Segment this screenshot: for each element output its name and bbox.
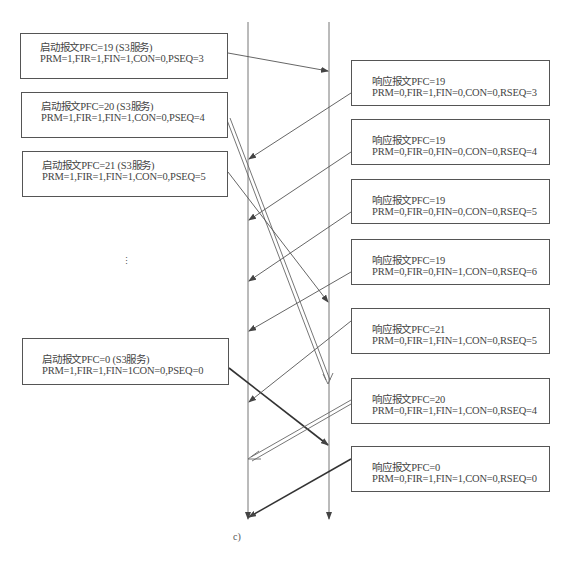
request-title: 启动报文PFC=19 (S3服务) xyxy=(40,42,152,53)
response-box-7: 响应报文PFC=0 PRM=0,FIR=1,FIN=1,CON=0,RSEQ=0 xyxy=(351,446,550,492)
request-arrow-pfc19 xyxy=(228,53,328,71)
response-arrow-4 xyxy=(249,272,351,331)
response-arrow-2 xyxy=(249,152,351,220)
response-box-3: 响应报文PFC=19 PRM=0,FIR=0,FIN=0,CON=0,RSEQ=… xyxy=(351,179,550,224)
response-arrow-6-double xyxy=(248,400,351,461)
response-title: 响应报文PFC=19 xyxy=(372,135,445,146)
response-title: 响应报文PFC=19 xyxy=(372,255,445,266)
request-params: PRM=1,FIR=1,FIN=1,CON=0,PSEQ=5 xyxy=(42,171,206,182)
response-arrow-3 xyxy=(249,212,351,281)
response-arrow-7 xyxy=(249,459,351,517)
response-title: 响应报文PFC=20 xyxy=(372,394,445,405)
request-title: 启动报文PFC=0 (S3服务) xyxy=(42,354,149,365)
response-params: PRM=0,FIR=1,FIN=0,CON=0,RSEQ=3 xyxy=(372,87,537,98)
request-title: 启动报文PFC=21 (S3服务) xyxy=(42,160,154,171)
request-params: PRM=1,FIR=1,FIN=1CON=0,PSEQ=0 xyxy=(42,365,203,376)
response-title: 响应报文PFC=21 xyxy=(372,324,445,335)
request-arrow-pfc0 xyxy=(229,368,328,445)
figure-caption: c) xyxy=(233,531,241,542)
response-params: PRM=0,FIR=1,FIN=1,CON=0,RSEQ=4 xyxy=(372,405,537,416)
request-params: PRM=1,FIR=1,FIN=1,CON=0,PSEQ=4 xyxy=(41,112,205,123)
response-title: 响应报文PFC=19 xyxy=(372,195,445,206)
request-title: 启动报文PFC=20 (S3服务) xyxy=(41,101,153,112)
response-box-1: 响应报文PFC=19 PRM=0,FIR=1,FIN=0,CON=0,RSEQ=… xyxy=(351,60,550,106)
request-arrow-pfc21 xyxy=(228,172,328,302)
response-title: 响应报文PFC=0 xyxy=(372,462,440,473)
request-box-pfc0: 启动报文PFC=0 (S3服务) PRM=1,FIR=1,FIN=1CON=0,… xyxy=(22,338,229,385)
response-title: 响应报文PFC=19 xyxy=(372,76,445,87)
response-box-2: 响应报文PFC=19 PRM=0,FIR=0,FIN=0,CON=0,RSEQ=… xyxy=(351,119,550,165)
response-params: PRM=0,FIR=1,FIN=1,CON=0,RSEQ=5 xyxy=(372,335,537,346)
response-box-5: 响应报文PFC=21 PRM=0,FIR=1,FIN=1,CON=0,RSEQ=… xyxy=(351,308,550,354)
response-params: PRM=0,FIR=1,FIN=1,CON=0,RSEQ=0 xyxy=(372,473,537,484)
response-params: PRM=0,FIR=0,FIN=1,CON=0,RSEQ=6 xyxy=(372,266,537,277)
response-box-6: 响应报文PFC=20 PRM=0,FIR=1,FIN=1,CON=0,RSEQ=… xyxy=(351,378,550,424)
response-arrow-1 xyxy=(249,93,351,159)
request-box-pfc20: 启动报文PFC=20 (S3服务) PRM=1,FIR=1,FIN=1,CON=… xyxy=(21,92,228,138)
request-box-pfc19: 启动报文PFC=19 (S3服务) PRM=1,FIR=1,FIN=1,CON=… xyxy=(20,33,228,79)
response-box-4: 响应报文PFC=19 PRM=0,FIR=0,FIN=1,CON=0,RSEQ=… xyxy=(351,239,550,285)
request-arrow-pfc20-double xyxy=(227,118,333,384)
response-params: PRM=0,FIR=0,FIN=0,CON=0,RSEQ=5 xyxy=(372,206,537,217)
response-params: PRM=0,FIR=0,FIN=0,CON=0,RSEQ=4 xyxy=(372,146,537,157)
ellipsis: ⋮ xyxy=(122,259,126,263)
response-arrow-5 xyxy=(249,321,351,402)
request-box-pfc21: 启动报文PFC=21 (S3服务) PRM=1,FIR=1,FIN=1,CON=… xyxy=(22,151,228,197)
request-params: PRM=1,FIR=1,FIN=1,CON=0,PSEQ=3 xyxy=(40,53,204,64)
